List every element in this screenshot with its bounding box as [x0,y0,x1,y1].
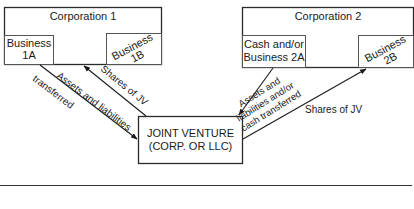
joint-venture-diagram: Corporation 1 Business 1A Business 1B Co… [0,0,414,209]
business-2a-line2: Business 2A [243,51,305,63]
business-2a-box: Cash and/or Business 2A [243,36,306,68]
business-1a-box: Business 1A [5,36,54,65]
corporation-1-box: Corporation 1 Business 1A Business 1B [5,8,162,72]
joint-venture-box: JOINT VENTURE (CORP. OR LLC) [139,117,243,164]
business-2a-line1: Cash and/or [244,38,304,50]
joint-venture-line2: (CORP. OR LLC) [149,140,233,152]
corporation-1-title: Corporation 1 [50,10,117,22]
business-1a-line1: Business [7,37,52,49]
label-shares-jv-corp2: Shares of JV [305,104,363,115]
corporation-2-box: Corporation 2 Cash and/or Business 2A Bu… [243,8,414,74]
business-1a-line2: 1A [22,49,36,61]
label-shares-jv-corp1: Shares of JV [99,63,151,108]
svg-text:Shares of JV: Shares of JV [99,63,151,108]
business-2b-box: Business 2B [359,32,414,73]
corporation-2-title: Corporation 2 [295,10,362,22]
joint-venture-line1: JOINT VENTURE [147,127,234,139]
business-1b-box: Business 1B [107,30,162,71]
